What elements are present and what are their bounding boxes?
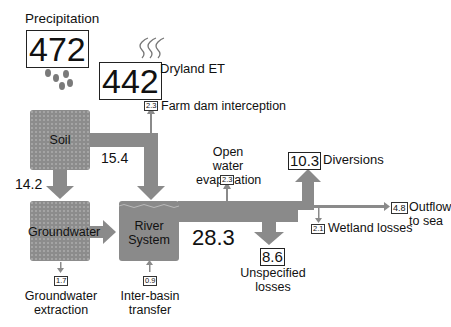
river-system-value: 28.3 xyxy=(192,225,235,251)
unspecified-losses-value: 8.6 xyxy=(260,248,285,266)
dryland-et-label: Dryland ET xyxy=(160,62,225,76)
inter-basin-transfer-label: Inter-basin transfer xyxy=(115,289,185,317)
groundwater-label: Groundwater xyxy=(28,225,90,239)
inter-basin-transfer-value: 0.9 xyxy=(143,276,157,286)
gw-extraction-label-line1: Groundwater xyxy=(20,289,102,303)
unspecified-losses-label: Unspecified losses xyxy=(238,266,308,294)
wetland-losses-label: Wetland losses xyxy=(328,221,413,235)
soil-node: Soil xyxy=(30,110,90,170)
open-water-evaporation-value: 2.3 xyxy=(220,175,234,185)
groundwater-node: Groundwater xyxy=(30,201,90,261)
outflow-to-sea-label: Outflow to sea xyxy=(409,200,451,228)
soil-to-river-value: 15.4 xyxy=(101,150,128,166)
river-label-line1: River xyxy=(119,219,179,233)
dryland-et-value: 442 xyxy=(99,62,162,100)
unspecified-label-line2: losses xyxy=(238,280,308,294)
soil-to-river-flow-down xyxy=(144,133,158,188)
diversions-label: Diversions xyxy=(323,153,384,167)
wetland-losses-value: 2.1 xyxy=(311,224,325,234)
unspecified-losses-arrowhead xyxy=(254,232,284,245)
soil-to-groundwater-arrowhead xyxy=(46,186,74,199)
river-label-line2: System xyxy=(119,233,179,247)
precipitation-value: 472 xyxy=(26,30,89,68)
evaporation-waves-icon xyxy=(140,38,164,58)
diversions-value: 10.3 xyxy=(288,152,321,170)
outflow-to-sea-value: 4.8 xyxy=(391,202,408,214)
farm-dam-label: Farm dam interception xyxy=(161,99,286,113)
inter-basin-label-line1: Inter-basin xyxy=(115,289,185,303)
soil-label: Soil xyxy=(30,133,90,147)
unspecified-label-line1: Unspecified xyxy=(238,266,308,280)
diversions-arrowhead xyxy=(295,169,321,182)
groundwater-extraction-value: 1.7 xyxy=(54,276,68,286)
rain-drops-icon xyxy=(45,69,73,90)
soil-to-river-arrowhead xyxy=(137,186,165,200)
farm-dam-value: 2.3 xyxy=(144,101,158,111)
inter-basin-label-line2: transfer xyxy=(115,303,185,317)
open-water-label-line1: Open water xyxy=(196,145,260,173)
soil-to-groundwater-value: 14.2 xyxy=(15,176,42,192)
groundwater-to-river-arrowhead xyxy=(103,220,116,244)
gw-extraction-label-line2: extraction xyxy=(20,303,102,317)
river-system-node: River System xyxy=(119,201,179,261)
river-main-stream xyxy=(178,201,308,210)
groundwater-extraction-label: Groundwater extraction xyxy=(20,289,102,317)
precipitation-label: Precipitation xyxy=(25,12,99,26)
